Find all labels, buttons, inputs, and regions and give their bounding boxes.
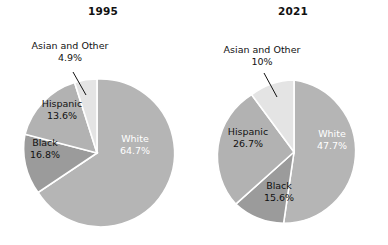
pie-chart-figure: 1995 Asian and Other 4.9% Hispanic 13.6%…	[0, 0, 388, 245]
pie-label-white-2021: White 47.7%	[299, 128, 365, 151]
pie-label-hispanic-name-1995: Hispanic	[22, 98, 102, 110]
pie-label-asian-and-other-2021: Asian and Other 10%	[196, 44, 328, 68]
pie-label-white-name-1995: White	[102, 133, 168, 145]
pie-label-asian-and-other-name-1995: Asian and Other	[5, 40, 135, 52]
pie-graphic-2021	[194, 0, 388, 245]
pie-label-black-name-2021: Black	[242, 180, 316, 192]
chart-panel-1995: 1995 Asian and Other 4.9% Hispanic 13.6%…	[0, 0, 194, 245]
pie-label-asian-and-other-value-2021: 10%	[196, 56, 328, 68]
pie-label-white-1995: White 64.7%	[102, 133, 168, 156]
pie-graphic-1995	[0, 0, 194, 245]
chart-panel-2021: 2021 Asian and Other 10% Hispanic 26.7% …	[194, 0, 388, 245]
pie-label-black-value-2021: 15.6%	[242, 192, 316, 204]
pie-label-black-2021: Black 15.6%	[242, 180, 316, 203]
pie-label-black-name-1995: Black	[8, 137, 82, 149]
pie-label-black-value-1995: 16.8%	[8, 149, 82, 161]
pie-label-white-value-1995: 64.7%	[102, 145, 168, 157]
pie-label-hispanic-value-1995: 13.6%	[22, 110, 102, 122]
pie-label-asian-and-other-1995: Asian and Other 4.9%	[5, 40, 135, 64]
pie-label-hispanic-value-2021: 26.7%	[207, 138, 289, 150]
pie-label-white-name-2021: White	[299, 128, 365, 140]
pie-label-hispanic-1995: Hispanic 13.6%	[22, 98, 102, 121]
pie-label-black-1995: Black 16.8%	[8, 137, 82, 160]
pie-label-asian-and-other-name-2021: Asian and Other	[196, 44, 328, 56]
pie-label-asian-and-other-value-1995: 4.9%	[5, 52, 135, 64]
pie-label-white-value-2021: 47.7%	[299, 140, 365, 152]
pie-label-hispanic-2021: Hispanic 26.7%	[207, 126, 289, 149]
pie-label-hispanic-name-2021: Hispanic	[207, 126, 289, 138]
